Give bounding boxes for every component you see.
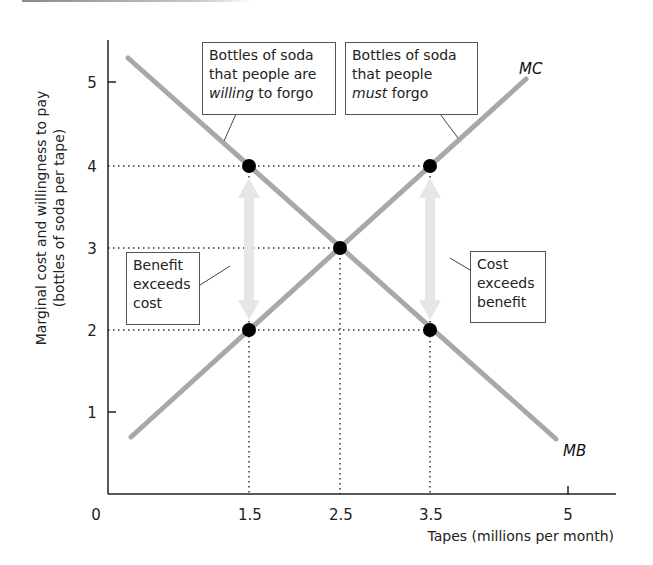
callout-emphasis: willing [209,85,254,101]
double-arrow-cost [419,178,441,320]
x-tick-label-2.5: 2.5 [329,506,353,524]
callout-text: exceeds [477,274,539,293]
callout-benefit-exceeds-cost: Benefit exceeds cost [126,252,200,325]
mb-label: MB [563,442,586,460]
point-1.5-2 [242,323,256,337]
y-tick-label-1: 1 [87,404,97,422]
callout-text: forgo [387,85,428,101]
callout-cost-exceeds-benefit: Cost exceeds benefit [470,251,546,323]
x-tick-label-3.5: 3.5 [419,506,443,524]
x-axis-title: Tapes (millions per month) [426,528,614,544]
point-3.5-2 [423,323,437,337]
point-1.5-4 [242,159,256,173]
callout-text: to forgo [254,85,313,101]
y-axis-title-line1: Marginal cost and willingness to pay [33,91,49,346]
callout-must-forgo: Bottles of soda that people must forgo [345,42,478,115]
callout-text: Bottles of soda [352,46,471,65]
point-3.5-4 [423,159,437,173]
x-tick-label-1.5: 1.5 [238,506,262,524]
y-tick-label-4: 4 [87,158,97,176]
callout-text: that people [352,65,471,84]
double-arrow-benefit [238,178,260,320]
mc-label: MC [519,60,543,78]
callout-text: benefit [477,293,539,312]
callout-willing-to-forgo: Bottles of soda that people are willing … [202,42,336,115]
x-tick-label-5: 5 [563,506,573,524]
callout-text: willing to forgo [209,84,329,103]
callout-text: must forgo [352,84,471,103]
callout-text: that people are [209,65,329,84]
callout-text: Cost [477,255,539,274]
callout-text: Benefit [133,256,193,275]
callout-text: exceeds [133,275,193,294]
callout-text: cost [133,294,193,313]
y-tick-label-2: 2 [87,322,97,340]
guide-lines [108,166,430,494]
callout-emphasis: must [352,85,387,101]
y-axis-title-line2: (bottles of soda per tape) [51,129,67,308]
callout-text: Bottles of soda [209,46,329,65]
origin-label: 0 [91,506,101,524]
point-2.5-3 [333,241,347,255]
y-tick-label-3: 3 [87,240,97,258]
y-tick-label-5: 5 [87,74,97,92]
